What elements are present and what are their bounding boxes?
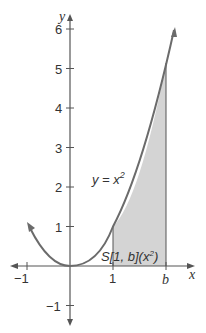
y-tick-6: 6 (55, 22, 62, 37)
curve-label: y = x2 (91, 170, 125, 187)
x-axis-left-arrow-icon (10, 263, 18, 269)
curve-label-base: y = x (91, 172, 120, 187)
region-label-base: S[1, b](x (101, 249, 150, 264)
y-tick-5: 5 (55, 62, 62, 77)
x-tick-neg1: −1 (14, 271, 29, 286)
y-tick-2: 2 (55, 180, 62, 195)
y-axis-label: y (57, 9, 66, 24)
y-tick-4: 4 (55, 101, 62, 116)
x-tick-1: 1 (109, 271, 116, 286)
curve-left-arrow-icon (27, 222, 35, 232)
curve-right-arrow-icon (171, 27, 177, 37)
y-tick-neg1: −1 (46, 299, 61, 314)
chart-figure: 6 5 4 3 2 1 −1 −1 1 b x y y = x2 S[1, b]… (0, 0, 206, 333)
y-tick-3: 3 (55, 141, 62, 156)
y-axis-down-arrow-icon (67, 319, 73, 326)
y-axis-up-arrow-icon (67, 14, 73, 21)
x-tick-b: b (162, 272, 169, 287)
y-tick-1: 1 (55, 220, 62, 235)
curve-label-exponent: 2 (119, 170, 125, 180)
x-axis-label: x (188, 267, 196, 282)
